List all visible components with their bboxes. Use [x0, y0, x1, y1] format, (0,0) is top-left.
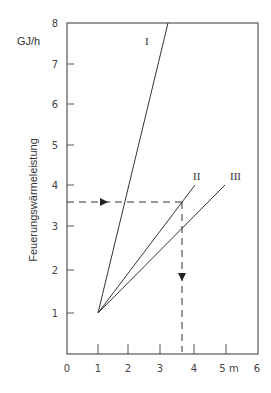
y-ticks — [67, 64, 74, 313]
x-tick-6: 6 — [254, 363, 260, 374]
x-ticks — [98, 344, 226, 354]
y-tick-labels: 1 2 3 4 5 6 7 8 — [52, 18, 58, 319]
series-I-line — [98, 23, 168, 313]
y-tick-2: 2 — [52, 265, 58, 276]
x-tick-labels: 0 1 2 3 4 5 m 6 — [64, 363, 260, 374]
series-II-line — [98, 185, 195, 313]
y-tick-7: 7 — [52, 59, 58, 70]
y-axis-label: Feuerungswärmeleistung — [27, 138, 39, 262]
y-unit-label: GJ/h — [17, 35, 40, 47]
y-tick-4: 4 — [52, 180, 58, 191]
x-tick-2: 2 — [125, 363, 131, 374]
y-tick-1: 1 — [52, 308, 58, 319]
y-tick-3: 3 — [52, 221, 58, 232]
y-tick-8: 8 — [52, 18, 58, 29]
series-I-label: I — [145, 35, 149, 47]
series-III-label: III — [230, 170, 241, 182]
y-tick-5: 5 — [52, 140, 58, 151]
plot-frame — [67, 23, 258, 354]
x-tick-4: 4 — [191, 363, 197, 374]
chart: 1 2 3 4 5 6 7 8 0 1 2 3 4 5 m 6 GJ/h Feu… — [0, 0, 271, 393]
series-II-label: II — [193, 170, 201, 182]
series-lines — [98, 23, 225, 313]
series-III-line — [98, 185, 225, 313]
arrow-right-icon — [100, 198, 108, 206]
arrow-down-icon — [178, 273, 186, 281]
x-tick-1: 1 — [95, 363, 101, 374]
x-tick-5: 5 m — [219, 363, 238, 374]
x-tick-3: 3 — [157, 363, 163, 374]
x-tick-0: 0 — [64, 363, 70, 374]
y-tick-6: 6 — [52, 99, 58, 110]
